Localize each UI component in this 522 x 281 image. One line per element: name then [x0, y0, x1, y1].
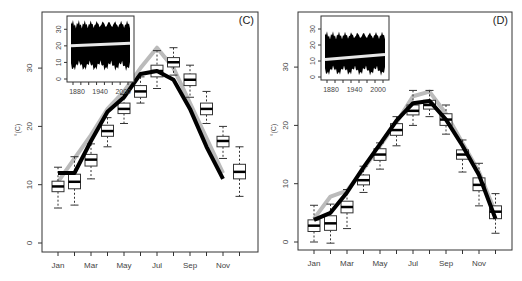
y-tick-label: 0 [281, 239, 290, 244]
inset-y-tick-label: 20 [55, 42, 62, 50]
black-series-line [314, 101, 496, 220]
panel-label: (C) [239, 14, 254, 26]
x-tick-label: Jan [308, 259, 321, 268]
x-tick-label: Nov [472, 259, 486, 268]
inset-x-tick-label: 2000 [370, 86, 386, 93]
x-tick-label: Mar [84, 261, 98, 270]
inset-timeseries: 0102030188019402000 [55, 16, 134, 95]
x-tick-label: May [116, 261, 131, 270]
inset-x-tick-label: 1940 [347, 86, 363, 93]
x-tick-label: Sep [439, 259, 454, 268]
y-tick-label: 20 [281, 120, 290, 129]
inset-y-tick-label: 10 [309, 57, 316, 65]
boxplot-dec [234, 147, 246, 197]
inset-x-tick-label: 2000 [115, 88, 131, 95]
y-tick-label: 0 [25, 240, 34, 245]
inset-y-tick-label: 30 [55, 25, 62, 33]
panel-label: (D) [493, 14, 508, 26]
inset-x-tick-label: 1940 [92, 88, 108, 95]
boxplot-oct [201, 91, 213, 123]
inset-y-tick-label: 0 [309, 75, 316, 79]
y-tick-label: 30 [25, 63, 34, 72]
x-tick-label: Mar [340, 259, 354, 268]
boxplot-aug [168, 48, 180, 75]
x-tick-label: Sep [183, 261, 198, 270]
y-axis-label: °(C) [270, 124, 278, 137]
x-tick-label: Jul [408, 259, 418, 268]
inset-y-tick-label: 10 [55, 58, 62, 66]
inset-y-tick-label: 20 [309, 41, 316, 49]
inset-y-tick-label: 0 [55, 77, 62, 81]
x-tick-label: May [372, 259, 387, 268]
panel-c: 0102030°(C)JanMarMayJulSepNov(C)01020301… [14, 12, 258, 270]
inset-y-tick-label: 30 [309, 25, 316, 33]
y-tick-label: 30 [281, 62, 290, 71]
x-tick-label: Jan [52, 261, 65, 270]
inset-timeseries: 0102030188019402000 [309, 16, 389, 93]
y-tick-label: 10 [25, 180, 34, 189]
x-tick-label: Nov [216, 261, 230, 270]
y-axis-label: °(C) [14, 124, 22, 137]
x-tick-label: Jul [152, 261, 162, 270]
y-tick-label: 10 [281, 179, 290, 188]
inset-x-tick-label: 1880 [323, 86, 339, 93]
inset-x-tick-label: 1880 [69, 88, 85, 95]
chart-figure: 0102030°(C)JanMarMayJulSepNov(C)01020301… [0, 0, 522, 281]
panel-d: 0102030°(C)JanMarMayJulSepNov(D)01020301… [270, 12, 512, 268]
boxplot-nov [217, 126, 229, 158]
y-tick-label: 20 [25, 121, 34, 130]
